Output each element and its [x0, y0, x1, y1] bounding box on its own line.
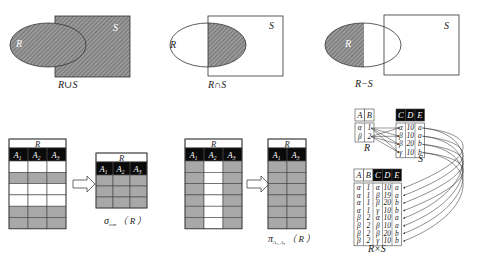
relation-table: RA1A3: [268, 139, 306, 229]
table-cell: [223, 184, 242, 195]
table-cell: [223, 172, 242, 183]
column-header: E: [416, 110, 423, 120]
arrow-right-icon: [247, 176, 269, 192]
column-header: C: [375, 170, 381, 180]
table-cell: [185, 172, 204, 183]
table-cell: [28, 161, 47, 172]
table-cell: [9, 206, 28, 217]
projection-caption: πA₁, A₃ （ R ）: [268, 233, 315, 246]
table-cell: b: [395, 236, 399, 245]
table-cell: [9, 195, 28, 206]
table-cell: [28, 195, 47, 206]
relation-s-label: S: [418, 153, 423, 164]
table-cell: [204, 218, 223, 229]
table-cell: [268, 195, 287, 206]
table-cell: [223, 206, 242, 217]
table-cell: [113, 175, 130, 186]
table-title: R: [34, 139, 41, 149]
column-header: B: [367, 110, 372, 120]
relation-r-label: R: [363, 142, 370, 153]
table-cell: [113, 197, 130, 208]
table-cell: [28, 218, 47, 229]
relation-table: RA1A2A3: [185, 139, 242, 229]
table-cell: [9, 172, 28, 183]
table-cell: [47, 161, 66, 172]
table-cell: [9, 218, 28, 229]
table-cell: [47, 218, 66, 229]
table-cell: [268, 218, 287, 229]
venn-intersection: R S R∩S: [169, 16, 283, 90]
relation-table: ABα1β2: [355, 109, 374, 142]
venn-difference: R S R−S: [325, 15, 459, 89]
arrow-right-icon: [73, 176, 95, 192]
table-cell: [185, 195, 204, 206]
table-cell: [185, 206, 204, 217]
column-header: D: [406, 110, 414, 120]
column-header: A: [355, 170, 362, 180]
venn-caption: R∪S: [57, 79, 78, 90]
set-r-label: R: [344, 38, 351, 49]
table-cell: [130, 175, 147, 186]
table-cell: [47, 206, 66, 217]
table-cell: [287, 172, 306, 183]
relational-algebra-diagram: R S R∪S R S R∩S R S R−S RA1A2A3RA1A2A3σc…: [0, 0, 498, 260]
table-cell: [287, 218, 306, 229]
table-cell: [287, 206, 306, 217]
venn-caption: R∩S: [207, 79, 226, 90]
table-cell: [96, 175, 113, 186]
relation-table: RA1A2A3: [9, 139, 66, 229]
table-cell: β: [357, 132, 362, 141]
cartesian-product-diagram: ABα1β2RCDEα10aβ10aβ20bγ10bSABCDEα1α10aα1…: [354, 109, 463, 254]
set-s-label: S: [269, 20, 274, 31]
table-cell: [223, 218, 242, 229]
table-cell: β: [356, 236, 361, 245]
table-cell: [9, 184, 28, 195]
table-cell: [223, 161, 242, 172]
venn-union: R S R∪S: [10, 16, 130, 90]
table-cell: [113, 186, 130, 197]
set-r-label: R: [169, 39, 176, 50]
set-s-label: S: [444, 20, 449, 31]
table-cell: [96, 197, 113, 208]
column-header: D: [383, 170, 391, 180]
table-cell: [28, 206, 47, 217]
table-cell: [185, 184, 204, 195]
table-cell: [268, 172, 287, 183]
table-cell: [223, 195, 242, 206]
table-cell: 2: [367, 132, 371, 141]
selection-caption: σcon （ R ）: [104, 215, 146, 227]
table-cell: [287, 161, 306, 172]
table-cell: [204, 172, 223, 183]
table-cell: [268, 184, 287, 195]
relation-table: ABCDEα1α10aα1β19aα1β20bα1γ10bβ2α10aβ2β10…: [354, 169, 402, 246]
table-cell: [28, 184, 47, 195]
set-r-label: R: [15, 38, 22, 49]
table-cell: [9, 161, 28, 172]
table-cell: [268, 206, 287, 217]
table-cell: [130, 186, 147, 197]
table-cell: [28, 172, 47, 183]
column-header: C: [398, 110, 404, 120]
table-cell: [47, 172, 66, 183]
table-cell: [287, 195, 306, 206]
relation-table: RA1A2A3: [96, 153, 147, 209]
table-cell: [268, 161, 287, 172]
result-label: R×S: [367, 243, 386, 254]
table-cell: 10: [407, 148, 415, 157]
table-title: R: [118, 153, 125, 163]
relation-table: CDEα10aβ10aβ20bγ10b: [396, 109, 425, 158]
table-cell: [204, 184, 223, 195]
set-s-label: S: [113, 22, 118, 33]
table-cell: [185, 218, 204, 229]
selection-diagram: RA1A2A3RA1A2A3σcon （ R ）: [9, 139, 147, 229]
table-cell: [130, 197, 147, 208]
table-title: R: [210, 139, 217, 149]
projection-diagram: RA1A2A3RA1A3πA₁, A₃ （ R ）: [185, 139, 315, 247]
column-header: A: [356, 110, 363, 120]
table-cell: [204, 206, 223, 217]
table-cell: [185, 161, 204, 172]
table-cell: [47, 195, 66, 206]
table-cell: [47, 184, 66, 195]
table-cell: [96, 186, 113, 197]
column-header: B: [366, 170, 371, 180]
